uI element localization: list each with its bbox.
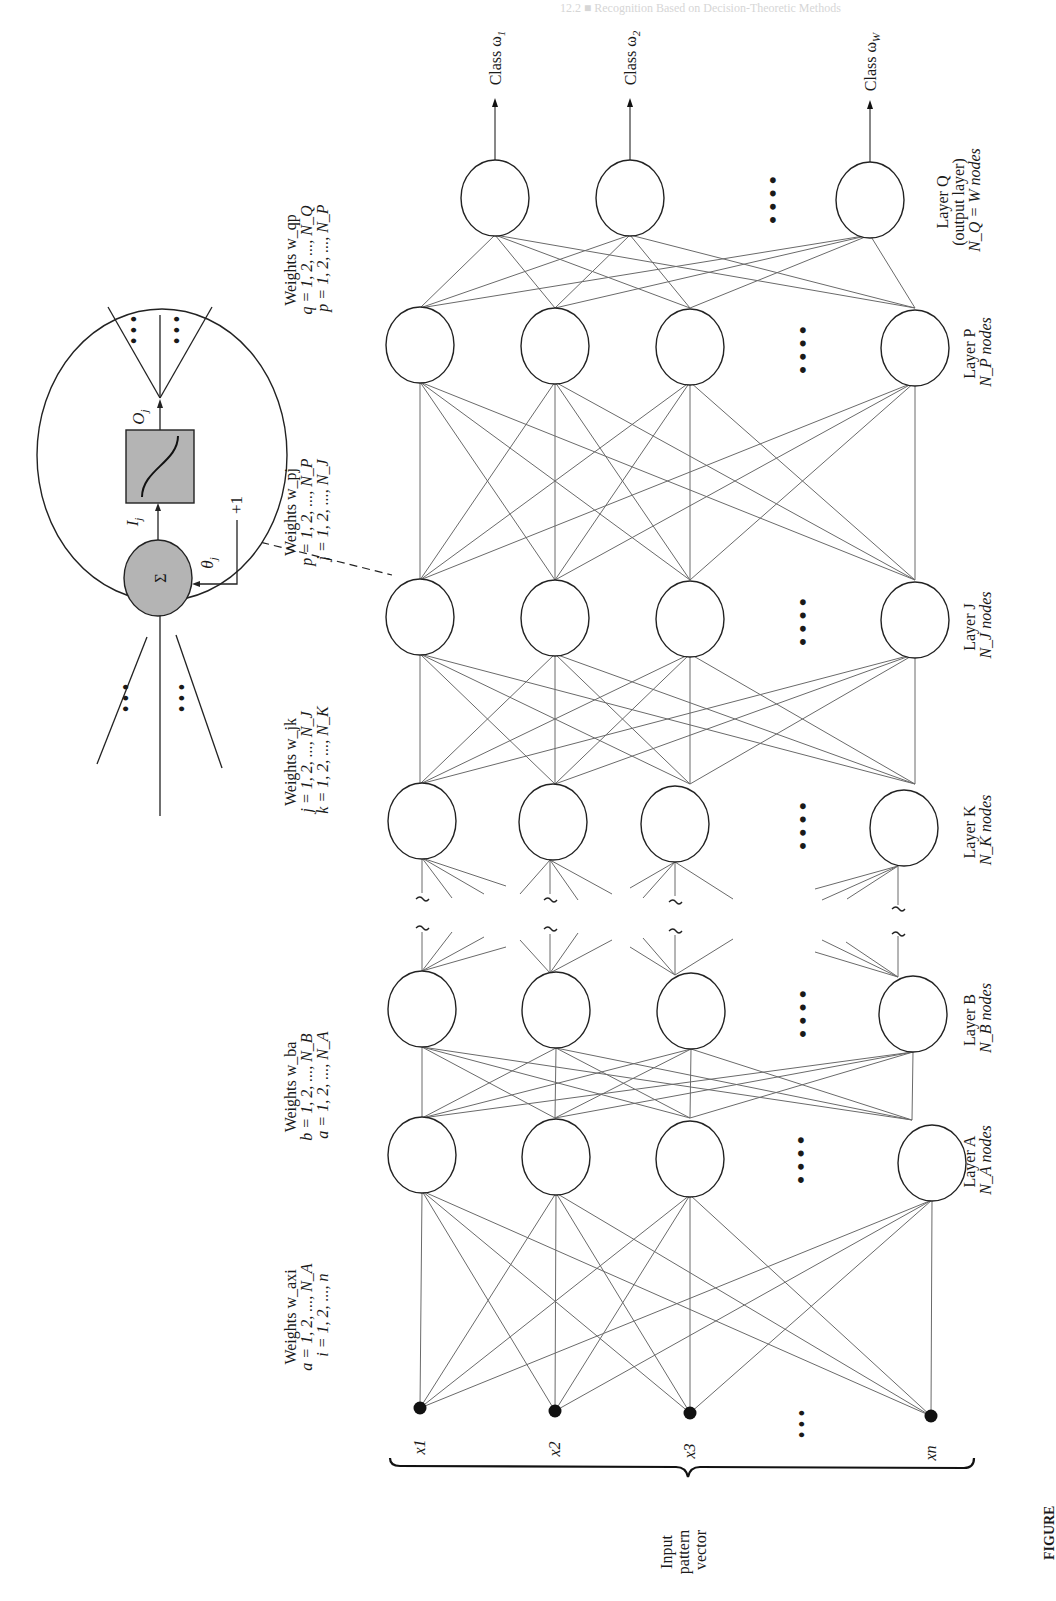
weights-ba-label: Weights w_ba b = 1, 2, ..., N_B a = 1, 2…: [282, 1029, 331, 1140]
layer-ellipses: • • • • • • • • • • • • • • • • • • • • …: [760, 176, 815, 1438]
weights-labels: Weights w_qp q = 1, 2, ..., N_Q p = 1, 2…: [282, 201, 332, 1370]
class-w-label: Class ωW: [862, 32, 882, 91]
weights-ba-edges: [422, 1047, 913, 1120]
weights-jk-edges: [420, 654, 915, 784]
layer-q-nodes: [461, 160, 904, 238]
bleed-header: 12.2 ■ Recognition Based on Decision-The…: [560, 1, 841, 15]
output-ellipsis: • • •: [167, 316, 187, 344]
input-nodes: [414, 1402, 938, 1423]
input-x3-label: x3: [681, 1443, 698, 1459]
break-stubs: [416, 858, 905, 977]
layer-b-label: Layer B N_B nodes: [961, 983, 994, 1054]
output-node: [596, 160, 664, 236]
layer-a-nodes: [388, 1117, 966, 1201]
ellipsis-a: • • • •: [788, 1136, 813, 1183]
weights-qp-label: Weights w_qp q = 1, 2, ..., N_Q p = 1, 2…: [282, 201, 332, 314]
layer-p-nodes: [386, 307, 949, 386]
layer-k-nodes: [388, 783, 938, 866]
class-1-label: Class ω1: [487, 31, 507, 86]
weights-qp-edges: [420, 235, 915, 308]
input-x1-label: x1: [411, 1439, 428, 1455]
weights-axi-label: Weights w_axi a = 1, 2, ..., N_A i = 1, …: [282, 1259, 331, 1370]
figure-caption-cutoff: FIGURE: [1042, 1506, 1056, 1560]
ellipsis-inputs: • • •: [792, 1410, 812, 1438]
ellipsis-b: • • • •: [790, 990, 815, 1037]
output-arrows: [492, 98, 873, 162]
class-labels: Class ω1 Class ω2 Class ωW: [487, 30, 882, 91]
class-2-label: Class ω2: [622, 30, 642, 85]
input-ellipsis: • • •: [116, 684, 136, 712]
input-ellipsis: • • •: [172, 684, 192, 712]
input-brace: [390, 1458, 974, 1477]
input-xn-label: xn: [922, 1445, 939, 1461]
layer-labels: Layer Q (output layer) N_Q = W nodes Lay…: [934, 148, 994, 1196]
layer-p-label: Layer P N_P nodes: [961, 317, 994, 387]
neural-network-figure: 12.2 ■ Recognition Based on Decision-The…: [0, 0, 1056, 1601]
layer-b-nodes: [388, 971, 947, 1052]
ellipsis-j: • • • •: [790, 598, 815, 645]
layer-a-label: Layer A N_A nodes: [961, 1125, 994, 1195]
layer-j-nodes: [386, 579, 949, 658]
layer-j-label: Layer J N_J nodes: [961, 591, 994, 659]
weights-jk-label: Weights w_jk j = 1, 2, ..., N_J k = 1, 2…: [282, 705, 331, 814]
output-node: [836, 162, 904, 238]
connections: [236, 98, 932, 1416]
output-ellipsis: • • •: [124, 316, 144, 344]
input-pattern-vector-label: Input pattern vector: [658, 1526, 709, 1574]
weights-axi-edges: [420, 1191, 932, 1416]
input-labels: x1 x2 x3 xn: [411, 1439, 939, 1461]
sigma-symbol: Σ: [152, 573, 169, 582]
layer-k-label: Layer K N_K nodes: [961, 795, 994, 867]
ellipsis-k: • • • •: [790, 802, 815, 849]
weights-pj-label: Weights w_pj p = 1, 2, ..., N_P j = 1, 2…: [282, 454, 332, 566]
bias-value: +1: [227, 496, 246, 514]
output-node: [461, 160, 529, 236]
layer-q-label: Layer Q (output layer) N_Q = W nodes: [934, 148, 983, 253]
input-x2-label: x2: [546, 1441, 563, 1457]
ellipsis-p: • • • •: [790, 326, 815, 373]
ellipsis-q: • • • •: [760, 176, 785, 223]
weights-pj-edges: [420, 382, 915, 580]
neuron-detail: • • • • • • Σ Ij Oj θj +1 • • • • • •: [37, 307, 287, 816]
